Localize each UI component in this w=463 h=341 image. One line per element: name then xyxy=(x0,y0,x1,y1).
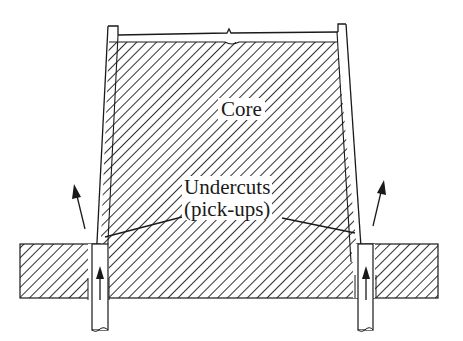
undercuts-label: Undercuts (pick-ups) xyxy=(182,176,272,220)
core-body xyxy=(100,42,358,262)
left-ejector-pin xyxy=(88,244,109,331)
top-frame xyxy=(108,24,346,35)
right-motion-arrow-icon xyxy=(373,180,386,226)
left-motion-arrow-icon xyxy=(72,184,85,229)
right-ejector-pin xyxy=(353,244,376,331)
core-undercut-diagram xyxy=(0,0,463,341)
undercuts-label-line1: Undercuts xyxy=(184,176,270,198)
undercuts-label-line2: (pick-ups) xyxy=(184,198,270,220)
core-label: Core xyxy=(218,98,265,120)
